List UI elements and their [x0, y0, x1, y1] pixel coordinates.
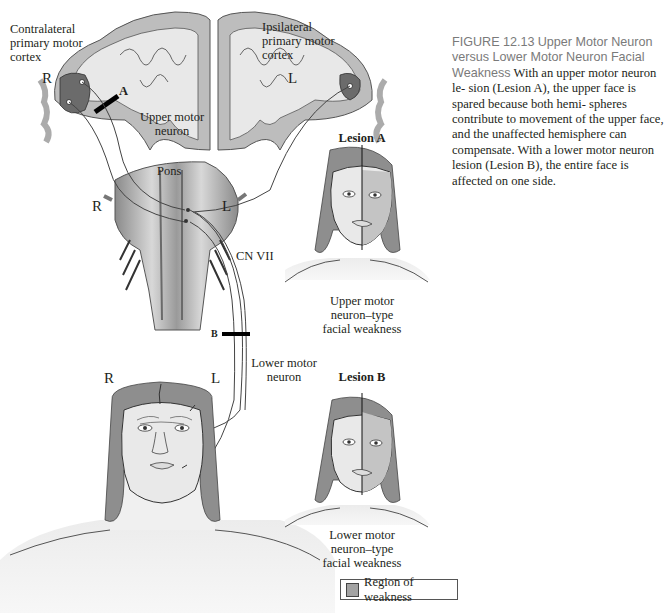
brainstem-side-right: R — [92, 198, 102, 215]
caption-line: facial weakness — [302, 322, 422, 336]
lesion-a-marker: A — [119, 84, 128, 98]
contralateral-label: Contralateral primary motor cortex — [10, 22, 83, 64]
panel-a-caption: Upper motor neuron–type facial weakness — [302, 294, 422, 336]
panel-b-caption: Lower motor neuron–type facial weakness — [302, 528, 422, 570]
panel-b-face — [285, 393, 430, 527]
label-line: primary motor — [10, 36, 83, 50]
cn-vii-label: CN VII — [236, 249, 274, 263]
figure-number: FIGURE 12.13 — [452, 35, 535, 49]
brain-side-right: R — [42, 70, 52, 87]
lesion-b-title: Lesion B — [302, 370, 422, 385]
legend: Region of weakness — [340, 579, 458, 600]
label-line: cortex — [10, 50, 83, 64]
lesion-a-title: Lesion A — [302, 131, 422, 146]
lesion-b-marker: B — [211, 327, 218, 341]
legend-label: Region of weakness — [364, 575, 457, 605]
weakness-swatch — [346, 583, 359, 597]
label-line: Lower motor — [244, 356, 324, 370]
label-line: cortex — [262, 48, 335, 62]
face-side-right: R — [104, 370, 114, 387]
figure-caption: FIGURE 12.13 Upper Motor Neuron versus L… — [452, 35, 664, 189]
brainstem-side-left: L — [222, 198, 231, 215]
face-side-left: L — [211, 370, 220, 387]
caption-line: Lower motor — [302, 528, 422, 542]
main-face — [0, 382, 335, 613]
label-line: Ipsilateral — [262, 20, 335, 34]
pons-label: Pons — [157, 164, 181, 178]
ipsilateral-label: Ipsilateral primary motor cortex — [262, 20, 335, 62]
label-line: Upper motor — [132, 110, 212, 124]
caption-line: facial weakness — [302, 556, 422, 570]
label-line: neuron — [132, 124, 212, 138]
label-line: Contralateral — [10, 22, 83, 36]
caption-line: neuron–type — [302, 308, 422, 322]
caption-line: Upper motor — [302, 294, 422, 308]
caption-line: neuron–type — [302, 542, 422, 556]
brain-side-left: L — [288, 70, 297, 87]
panel-a-face — [285, 145, 430, 282]
label-line: primary motor — [262, 34, 335, 48]
upper-motor-neuron-label: Upper motor neuron — [132, 110, 212, 138]
